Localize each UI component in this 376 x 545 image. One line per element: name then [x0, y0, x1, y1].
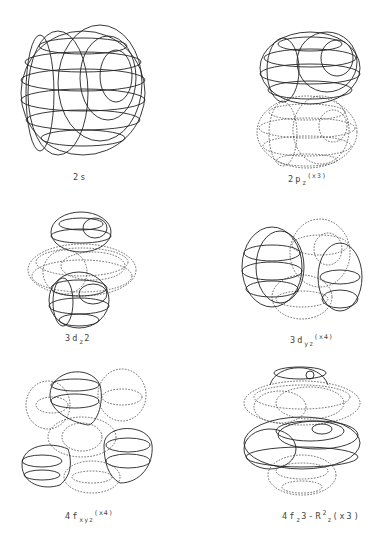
orbital-3dz2-panel [25, 210, 140, 330]
orbital-4fxyz-panel [20, 365, 150, 495]
orbital-2pz-label: 2pz(x3) [288, 172, 327, 187]
orbital-2pz-panel [255, 30, 365, 170]
orbital-4fz3-panel [240, 363, 365, 498]
orbital-3dyz-panel [240, 215, 365, 325]
orbital-4fxyz-label: 4fxyz(x4) [65, 509, 114, 524]
orbital-3dyz-drawing [240, 215, 365, 325]
orbital-3dz2-label: 3dz2 [65, 333, 91, 346]
orbital-subscript: z [302, 179, 307, 187]
multiplicity: (x3) [307, 172, 327, 180]
orbital-2s-drawing [18, 28, 148, 158]
orbital-3dz2-drawing [25, 210, 140, 330]
orbital-subscript: yz [304, 340, 314, 348]
orbital-exponent: 2 [84, 333, 91, 343]
orbital-2s-label: 2s [73, 172, 87, 182]
multiplicity: (x3) [332, 511, 360, 521]
multiplicity: (x4) [94, 509, 114, 517]
orbital-4fz3-drawing [240, 363, 365, 498]
orbital-letter: s [80, 172, 87, 182]
orbital-2pz-drawing [255, 30, 365, 170]
orbital-2s-panel [18, 28, 148, 158]
orbital-expression: 3-R [301, 511, 322, 521]
orbital-4fxyz-drawing [20, 365, 150, 495]
multiplicity: (x4) [314, 333, 334, 341]
orbital-subscript: xyz [79, 516, 94, 524]
orbital-3dyz-label: 3dyz(x4) [290, 333, 334, 348]
orbital-4fz3-label: 4fz3-R2z(x3) [282, 509, 361, 524]
